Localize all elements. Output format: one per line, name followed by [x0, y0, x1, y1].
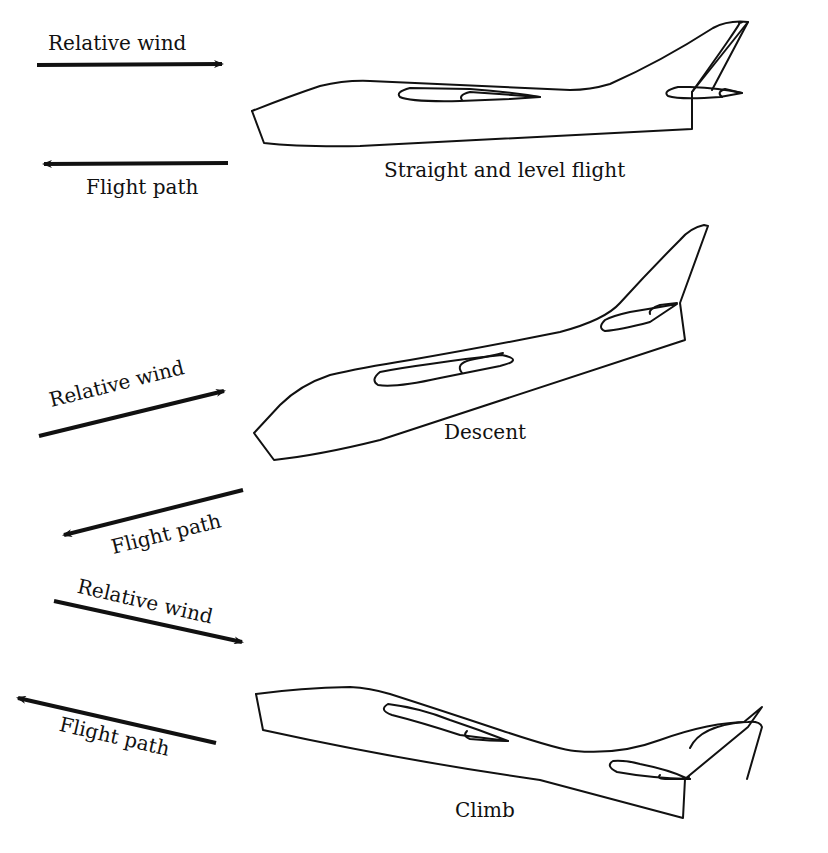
- level-flight-path-arrow: [44, 163, 228, 164]
- diagram-canvas: [0, 0, 828, 853]
- level-caption: Straight and level flight: [384, 160, 625, 180]
- level-flight-path-label: Flight path: [86, 177, 198, 197]
- descent-caption: Descent: [444, 422, 526, 442]
- level-relative-wind-label: Relative wind: [48, 33, 186, 53]
- level-aircraft-outline: [252, 22, 748, 147]
- level-relative-wind-arrow: [37, 64, 222, 65]
- climb-caption: Climb: [455, 800, 515, 820]
